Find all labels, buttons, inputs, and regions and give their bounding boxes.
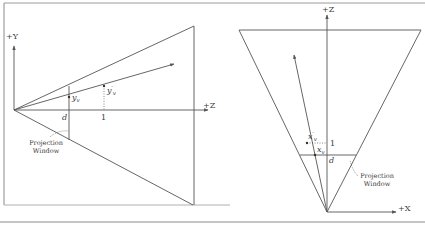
left-y-axis-label: +Y	[6, 33, 18, 41]
right-xv-point	[314, 154, 316, 156]
left-yv-prime-point	[103, 85, 105, 87]
left-yv-prime-label: y′v	[107, 86, 116, 97]
left-ray	[14, 64, 174, 110]
right-x-axis-label: +X	[398, 205, 410, 213]
right-projection-window-caption: Projection Window	[355, 172, 399, 188]
left-d-label: d	[62, 114, 67, 122]
left-side-view-diagram	[14, 26, 208, 205]
left-z-axis-label: +Z	[203, 102, 215, 110]
right-frustum-left-edge	[239, 30, 327, 212]
left-yv-label: yv	[72, 94, 80, 104]
left-frustum-bottom-edge	[14, 110, 193, 205]
left-yv-point	[68, 96, 70, 98]
right-d-label: d	[329, 157, 334, 165]
left-frustum-top-edge	[14, 26, 194, 110]
right-one-label: 1	[330, 140, 335, 148]
right-xv-label: xv	[317, 146, 325, 156]
left-projection-window-caption: Projection Window	[24, 139, 68, 155]
right-z-axis-label: +Z	[322, 6, 334, 14]
left-one-label: 1	[101, 114, 106, 122]
projection-diagram-figure: +Y +Z yv y′v d 1 Projection Window +Z +X…	[0, 0, 425, 226]
right-xv-prime-label: x′v	[308, 132, 317, 143]
